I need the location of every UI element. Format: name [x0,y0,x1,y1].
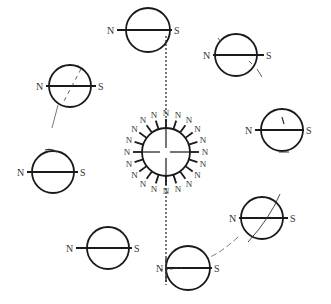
north-pole-label: N [175,110,182,120]
north-pole-label: N [202,147,209,157]
north-spoke [135,142,144,145]
south-pole-label: S [306,125,312,136]
north-spoke [189,159,198,162]
north-pole-label: N [186,179,193,189]
north-pole-label: N [124,147,131,157]
sphere-lower-right: NS [229,197,296,239]
north-pole-label: N [200,135,207,145]
north-pole-label: N [156,263,163,274]
north-pole-label: N [107,25,114,36]
north-pole-label: N [186,115,193,125]
sphere-left: NS [17,151,86,193]
sphere-lower-left: NS [66,227,140,269]
north-pole-label: N [131,170,138,180]
north-spoke [180,125,185,132]
north-pole-label: N [163,186,170,196]
north-spoke [147,171,152,178]
north-spoke [135,159,144,162]
central-sphere: NNNNNNNNNNNNNNNNNNNN [124,108,209,196]
north-pole-label: N [229,213,236,224]
sphere-right: NS [245,109,312,151]
north-pole-label: N [131,124,138,134]
north-pole-label: N [36,81,43,92]
rotation-path-left [52,105,58,128]
north-pole-label: N [151,184,158,194]
north-pole-label: N [245,125,252,136]
north-pole-label: N [140,115,147,125]
south-pole-label: S [134,243,140,254]
south-pole-label: S [80,167,86,178]
north-pole-label: N [200,159,207,169]
north-spoke [139,133,146,138]
south-pole-label: S [174,25,180,36]
north-spoke [189,142,198,145]
sphere-top-center: NS [107,8,180,52]
north-spoke [156,121,159,130]
north-pole-label: N [17,167,24,178]
north-pole-label: N [140,179,147,189]
north-spoke [173,121,176,130]
south-pole-label: S [98,81,104,92]
north-spoke [156,175,159,184]
magnetic-domains-diagram: NSNSNSNSNSNSNSNS NNNNNNNNNNNNNNNNNNNN [0,0,331,304]
north-pole-label: N [151,110,158,120]
north-spoke [185,133,192,138]
north-pole-label: N [126,135,133,145]
north-spoke [147,125,152,132]
north-pole-label: N [175,184,182,194]
sphere-upper-left: NS [36,65,104,107]
north-pole-label: N [194,124,201,134]
rotation-path-right [208,237,238,258]
north-spoke [139,166,146,171]
north-pole-label: N [163,108,170,118]
sphere-upper-right: NS [203,34,272,76]
north-pole-label: N [203,50,210,61]
north-pole-label: N [66,243,73,254]
south-pole-label: S [214,263,220,274]
north-spoke [173,175,176,184]
north-pole-label: N [126,159,133,169]
south-pole-label: S [266,50,272,61]
north-spoke [180,171,185,178]
south-pole-label: S [290,213,296,224]
north-spoke [185,166,192,171]
north-pole-label: N [194,170,201,180]
